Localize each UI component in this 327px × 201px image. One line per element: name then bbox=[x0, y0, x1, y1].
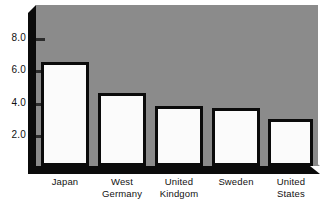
x-axis-bevel bbox=[310, 166, 320, 174]
y-tick-label: 6.0 bbox=[2, 65, 26, 75]
category-label-line2: States bbox=[264, 188, 318, 200]
bar-sweden bbox=[212, 108, 260, 166]
x-category-label-west-germany: West Germany bbox=[96, 176, 148, 199]
category-label-line1: United bbox=[152, 176, 206, 188]
bar-united-kingdom bbox=[155, 106, 203, 166]
x-category-label-sweden: Sweden bbox=[210, 176, 262, 188]
category-label-line1: Japan bbox=[39, 176, 91, 188]
x-axis bbox=[28, 166, 310, 174]
category-label-line1: United bbox=[264, 176, 318, 188]
category-label-line2: Kindgom bbox=[152, 188, 206, 200]
bar-united-states bbox=[268, 119, 313, 166]
y-axis bbox=[28, 13, 36, 174]
y-tick-label: 8.0 bbox=[2, 33, 26, 43]
category-label-line2: Germany bbox=[96, 188, 148, 200]
y-axis-bevel bbox=[28, 5, 36, 13]
bar-chart: 8.0 6.0 4.0 2.0 Japan West Germany Unite… bbox=[0, 0, 327, 201]
x-category-label-united-kingdom: United Kindgom bbox=[152, 176, 206, 199]
y-tick-label: 4.0 bbox=[2, 98, 26, 108]
y-tick-mark bbox=[36, 38, 45, 41]
bar-japan bbox=[41, 62, 89, 166]
category-label-line1: West bbox=[96, 176, 148, 188]
x-category-label-japan: Japan bbox=[39, 176, 91, 188]
category-label-line1: Sweden bbox=[210, 176, 262, 188]
x-category-label-united-states: United States bbox=[264, 176, 318, 199]
bar-west-germany bbox=[98, 93, 146, 166]
y-tick-label: 2.0 bbox=[2, 130, 26, 140]
